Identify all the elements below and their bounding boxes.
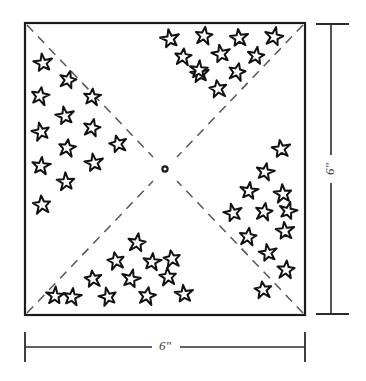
height-dimension: 6"	[316, 24, 349, 314]
width-dimension-label: 6"	[159, 338, 172, 353]
width-dimension: 6"	[25, 332, 305, 362]
height-dimension-label: 6"	[322, 162, 337, 175]
quilt-block-diagram: 6"6"	[0, 0, 366, 381]
center-pivot-point	[162, 166, 167, 171]
diagram-canvas: 6"6"	[0, 0, 366, 381]
center-pivot-point	[162, 166, 167, 171]
